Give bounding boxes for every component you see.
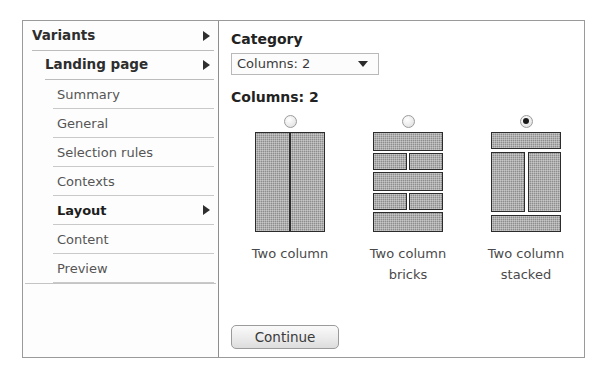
layout-block [491,215,561,232]
layout-block [373,212,443,231]
layout-block [409,193,443,210]
sidebar-item-landing-page[interactable]: Landing page [23,51,218,79]
layout-option-label: Two column stacked [474,243,578,286]
chevron-right-icon [203,60,210,70]
sidebar-item-selection-rules[interactable]: Selection rules [23,138,218,166]
layout-block [255,132,290,232]
sidebar-item-label: Selection rules [57,146,153,159]
layout-block [528,152,562,212]
chevron-right-icon [203,205,210,215]
layout-option-label: Two column [238,243,342,264]
sidebar-item-label: Contexts [57,175,115,188]
layout-option-two-column-stacked[interactable]: Two column stacked [467,115,585,286]
group-title: Columns: 2 [231,89,585,106]
sidebar-item-preview[interactable]: Preview [23,254,218,282]
category-title: Category [231,31,585,48]
sidebar-item-contexts[interactable]: Contexts [23,167,218,195]
chevron-right-icon [203,31,210,41]
thumbnail-two-column-bricks [373,132,443,232]
layout-option-label: Two column bricks [356,243,460,286]
sidebar-item-summary[interactable]: Summary [23,80,218,108]
category-select[interactable]: Columns: 2 [231,53,379,75]
layout-block [409,153,443,170]
layout-option-two-column[interactable]: Two column [231,115,349,286]
chevron-down-icon [358,61,368,67]
sidebar-item-label: General [57,117,108,130]
sidebar-item-variants[interactable]: Variants [23,22,218,50]
radio-button[interactable] [284,115,297,128]
layout-block [373,132,443,151]
thumbnail-two-column [255,132,325,232]
sidebar-item-label: Layout [57,204,107,217]
layout-option-list: Two columnTwo column bricksTwo column st… [231,115,585,286]
layout-block [491,152,525,212]
layout-block-row [373,193,443,210]
layout-block [373,172,443,191]
sidebar-item-label: Content [57,233,109,246]
sidebar-item-label: Preview [57,262,108,275]
continue-button[interactable]: Continue [231,325,339,349]
content-panel: Category Columns: 2 Columns: 2 Two colum… [219,21,585,357]
sidebar-item-label: Summary [57,88,120,101]
thumbnail-two-column-stacked [491,132,561,232]
layout-block [373,153,407,170]
layout-option-two-column-bricks[interactable]: Two column bricks [349,115,467,286]
layout-block-row [373,153,443,170]
continue-button-label: Continue [255,329,316,345]
sidebar-item-layout[interactable]: Layout [23,196,218,224]
dialog-frame: VariantsLanding pageSummaryGeneralSelect… [22,20,585,358]
sidebar-item-label: Landing page [45,58,148,72]
layout-block [373,193,407,210]
layout-block [290,132,325,232]
radio-button[interactable] [520,115,533,128]
sidebar-item-label: Variants [32,29,95,43]
sidebar-item-general[interactable]: General [23,109,218,137]
navigation-sidebar: VariantsLanding pageSummaryGeneralSelect… [23,21,219,357]
radio-button[interactable] [402,115,415,128]
sidebar-divider [25,283,216,284]
layout-block-row [491,152,561,212]
layout-block [491,132,561,149]
category-select-value: Columns: 2 [237,56,310,71]
sidebar-item-content[interactable]: Content [23,225,218,253]
